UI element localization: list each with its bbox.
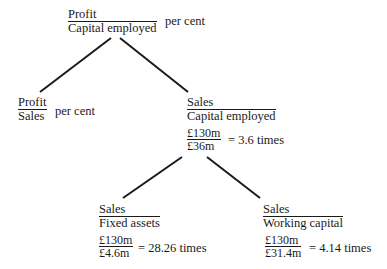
sales-capital-result: = 3.6 times [228,134,284,147]
fixed-assets-result: = 28.26 times [138,242,207,255]
profit-sales-suffix: per cent [55,105,95,118]
profit-sales-denominator: Sales [18,110,47,123]
root-suffix: per cent [165,15,205,28]
sales-capital-fraction: Sales Capital employed [187,96,276,123]
working-capital-calc-denominator: £31.4m [265,247,301,259]
fixed-assets-numerator: Sales [99,203,160,217]
connector-right-to-fixed-assets [123,157,182,198]
sales-capital-numerator: Sales [187,96,276,110]
sales-capital-calc-fraction: £130m £36m [187,127,221,152]
connector-root-to-right [120,38,188,92]
fixed-assets-calc-fraction: £130m £4.6m [99,234,133,259]
profit-sales-numerator: Profit [18,96,47,110]
root-fraction: Profit Capital employed [68,8,157,35]
connector-root-to-left [40,38,111,92]
working-capital-calc-fraction: £130m £31.4m [265,234,301,259]
working-capital-numerator: Sales [263,203,343,217]
fixed-assets-calc-denominator: £4.6m [99,247,133,259]
working-capital-result: = 4.14 times [309,242,371,255]
profit-sales-fraction: Profit Sales [18,96,47,123]
fixed-assets-denominator: Fixed assets [99,217,160,230]
connector-right-to-working-capital [207,157,260,198]
working-capital-fraction: Sales Working capital [263,203,343,230]
working-capital-denominator: Working capital [263,217,343,230]
sales-capital-calc-denominator: £36m [187,140,221,152]
fixed-assets-fraction: Sales Fixed assets [99,203,160,230]
root-denominator: Capital employed [68,22,157,35]
sales-capital-denominator: Capital employed [187,110,276,123]
root-numerator: Profit [68,8,157,22]
